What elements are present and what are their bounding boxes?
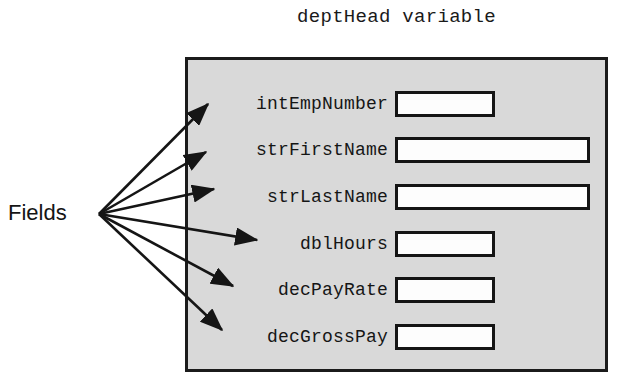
field-value-box[interactable] bbox=[395, 184, 590, 210]
field-name-label: strLastName bbox=[267, 183, 388, 211]
field-value-box[interactable] bbox=[395, 137, 590, 163]
field-value-box[interactable] bbox=[395, 324, 495, 350]
field-value-box[interactable] bbox=[395, 231, 495, 257]
diagram-title: deptHead variable bbox=[185, 6, 608, 28]
field-name-label: decPayRate bbox=[278, 276, 388, 304]
field-name-label: dblHours bbox=[300, 230, 388, 258]
field-name-label: intEmpNumber bbox=[256, 90, 388, 118]
field-row: strLastName bbox=[188, 183, 611, 211]
field-value-box[interactable] bbox=[395, 91, 495, 117]
variable-box: intEmpNumberstrFirstNamestrLastNamedblHo… bbox=[185, 57, 608, 372]
field-name-label: decGrossPay bbox=[267, 323, 388, 351]
field-row: decPayRate bbox=[188, 276, 611, 304]
field-value-box[interactable] bbox=[395, 277, 495, 303]
field-name-label: strFirstName bbox=[256, 136, 388, 164]
field-row: intEmpNumber bbox=[188, 90, 611, 118]
diagram-canvas: deptHead variable intEmpNumberstrFirstNa… bbox=[0, 0, 641, 389]
field-row: strFirstName bbox=[188, 136, 611, 164]
field-row: decGrossPay bbox=[188, 323, 611, 351]
field-row: dblHours bbox=[188, 230, 611, 258]
fields-caption-label: Fields bbox=[8, 200, 67, 226]
